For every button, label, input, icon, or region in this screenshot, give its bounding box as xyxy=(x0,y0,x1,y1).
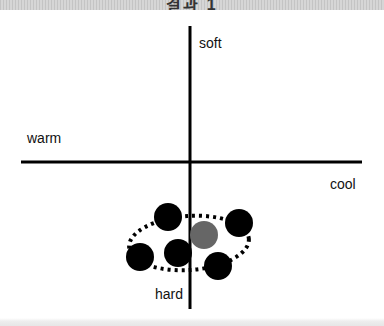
data-point xyxy=(164,239,192,267)
label-hard: hard xyxy=(155,286,183,302)
highlighted-data-point xyxy=(190,221,218,249)
positioning-map: soft warm cool hard xyxy=(0,0,384,326)
data-point xyxy=(126,243,154,271)
data-point xyxy=(204,252,232,280)
label-warm: warm xyxy=(26,130,61,146)
label-soft: soft xyxy=(199,35,222,51)
data-point xyxy=(154,203,182,231)
label-cool: cool xyxy=(330,176,356,192)
footer-band xyxy=(0,318,384,326)
data-point xyxy=(225,209,253,237)
